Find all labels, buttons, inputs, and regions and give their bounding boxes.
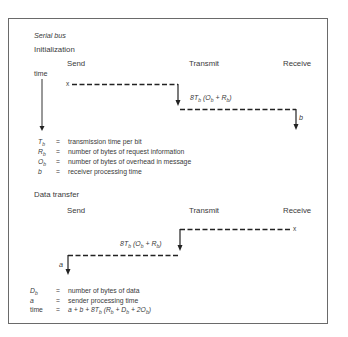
- legend-row: time=a + b + 8Tb (Rb + Db + 2Ob): [30, 306, 151, 316]
- legend-data-transfer: Db=number of bytes of data a=sender proc…: [30, 287, 151, 316]
- legend-row: b=receiver processing time: [38, 168, 191, 177]
- section-title-data-transfer: Data transfer: [34, 191, 79, 199]
- legend-row: Db=number of bytes of data: [30, 287, 151, 297]
- legend-row: Tb=transmission time per bit: [38, 138, 191, 148]
- send-label-data: a: [59, 261, 63, 268]
- column-receive-2: Receive: [283, 207, 311, 215]
- legend-row: Rb=number of bytes of request informatio…: [38, 148, 191, 158]
- transmit-label-data: 8Tb (Ob + Rb): [120, 240, 162, 249]
- column-send-2: Send: [67, 207, 85, 215]
- legend-row: Ob=number of bytes of overhead in messag…: [38, 158, 191, 168]
- column-transmit-2: Transmit: [189, 207, 219, 215]
- start-marker-data: x: [293, 226, 296, 233]
- legend-row: a=sender processing time: [30, 297, 151, 306]
- legend-initialization: Tb=transmission time per bit Rb=number o…: [38, 138, 191, 177]
